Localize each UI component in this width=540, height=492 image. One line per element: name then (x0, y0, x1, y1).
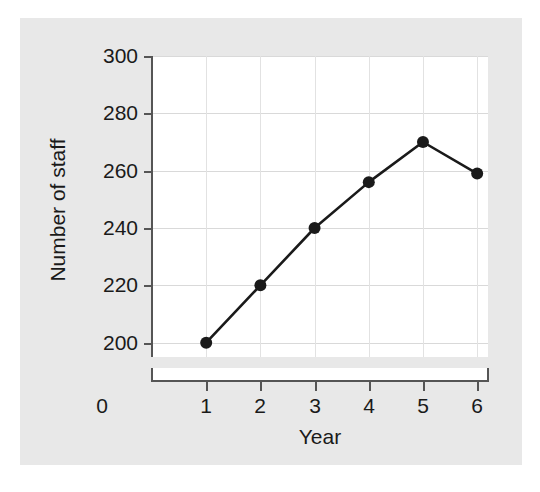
x-tick-mark (369, 382, 371, 391)
x-axis-title: Year (152, 425, 488, 449)
x-axis-spine-right (487, 368, 489, 382)
y-tick-label: 240 (80, 217, 138, 238)
y-tick-label-text: 300 (82, 45, 138, 66)
y-tick-label: 200 (80, 332, 138, 353)
x-tick-mark (315, 382, 317, 391)
y-axis-title: Number of staff (46, 110, 70, 310)
x-tick-label: 5 (403, 394, 443, 418)
x-tick-label: 2 (240, 394, 280, 418)
data-series-line (152, 56, 488, 357)
plot-area (152, 56, 488, 357)
x-axis-spine (151, 380, 489, 382)
x-tick-label: 6 (457, 394, 497, 418)
y-tick-label-text: 240 (82, 217, 138, 238)
y-tick-label: 280 (80, 102, 138, 123)
y-tick-label-text: 280 (82, 102, 138, 123)
series-polyline (206, 142, 477, 343)
data-point-marker (417, 136, 429, 148)
y-tick-label: 220 (80, 274, 138, 295)
x-tick-label: 1 (186, 394, 226, 418)
data-point-marker (254, 279, 266, 291)
x-tick-label: 0 (82, 394, 122, 418)
data-point-marker (309, 222, 321, 234)
chart-figure: Number of staff 200220240260280300 01234… (0, 0, 540, 492)
x-tick-label: 3 (295, 394, 335, 418)
y-tick-label: 300 (80, 45, 138, 66)
y-tick-label: 260 (80, 160, 138, 181)
x-tick-mark (206, 382, 208, 391)
y-axis-spine (151, 56, 153, 357)
y-tick-label-text: 200 (82, 332, 138, 353)
y-tick-label-text: 260 (82, 160, 138, 181)
y-tick-label-text: 220 (82, 274, 138, 295)
data-point-marker (471, 168, 483, 180)
data-point-marker (363, 176, 375, 188)
data-point-marker (200, 337, 212, 349)
x-tick-label: 4 (349, 394, 389, 418)
x-tick-mark (423, 382, 425, 391)
x-tick-mark (260, 382, 262, 391)
x-tick-mark (477, 382, 479, 391)
